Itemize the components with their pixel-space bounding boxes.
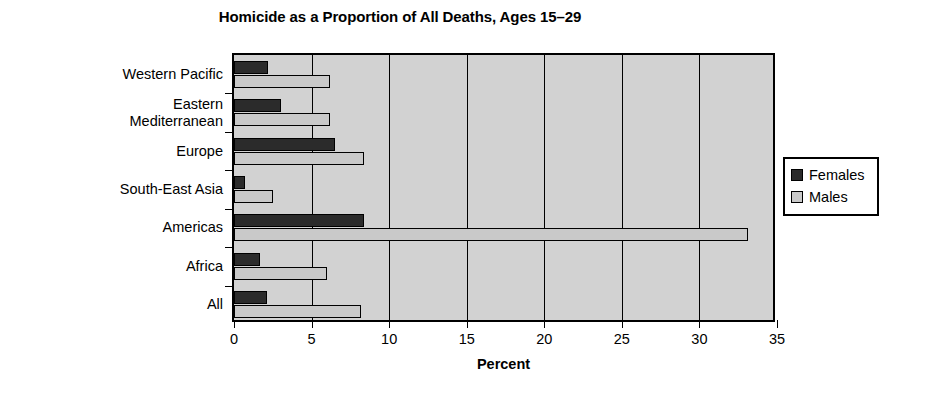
legend-label-males: Males [809, 189, 848, 205]
y-tick-label-line: Western Pacific [123, 66, 223, 83]
y-tick-label-line: South-East Asia [120, 181, 223, 198]
bar-females [234, 176, 245, 189]
x-tick-label: 20 [524, 331, 564, 347]
x-tick-mark [312, 320, 313, 328]
bar-males [234, 113, 330, 126]
y-tick-label: Africa [186, 258, 223, 275]
x-tick-label: 0 [214, 331, 254, 347]
bar-females [234, 253, 260, 266]
y-tick-label: All [207, 296, 223, 313]
bar-females [234, 138, 335, 151]
y-tick-label: Americas [163, 219, 223, 236]
y-tick-label-line: Americas [163, 219, 223, 236]
y-tick-mark [225, 209, 234, 210]
bars-layer [234, 55, 773, 320]
bar-males [234, 75, 330, 88]
y-tick-label-line: Mediterranean [130, 113, 224, 130]
legend-item: Females [791, 164, 871, 186]
y-tick-label: South-East Asia [120, 181, 223, 198]
x-tick-mark [234, 320, 235, 328]
bar-females [234, 61, 268, 74]
y-tick-mark [225, 286, 234, 287]
legend-label-females: Females [809, 167, 865, 183]
x-tick-mark [467, 320, 468, 328]
x-tick-label: 10 [369, 331, 409, 347]
bar-females [234, 214, 364, 227]
x-tick-mark [389, 320, 390, 328]
y-tick-mark [225, 170, 234, 171]
bar-males [234, 152, 364, 165]
y-tick-label-line: Eastern [130, 96, 224, 113]
x-tick-label: 30 [679, 331, 719, 347]
y-tick-label-line: Europe [176, 143, 223, 160]
legend-swatch-males-icon [791, 191, 803, 203]
x-tick-mark [544, 320, 545, 328]
x-tick-mark [777, 320, 778, 328]
bar-males [234, 305, 361, 318]
x-axis-title: Percent [232, 356, 775, 372]
legend-item: Males [791, 186, 871, 208]
chart-title: Homicide as a Proportion of All Deaths, … [0, 8, 800, 25]
x-tick-label: 35 [757, 331, 797, 347]
y-tick-label: EasternMediterranean [130, 96, 224, 130]
legend: Females Males [783, 157, 879, 216]
bar-males [234, 267, 327, 280]
y-tick-label-line: All [207, 296, 223, 313]
y-tick-label-line: Africa [186, 258, 223, 275]
bar-females [234, 291, 267, 304]
x-tick-label: 5 [292, 331, 332, 347]
bar-males [234, 190, 273, 203]
y-tick-mark [225, 93, 234, 94]
chart-container: Homicide as a Proportion of All Deaths, … [0, 0, 936, 396]
y-tick-label: Western Pacific [123, 66, 223, 83]
y-tick-mark [225, 132, 234, 133]
x-tick-mark [699, 320, 700, 328]
bar-males [234, 228, 748, 241]
x-tick-label: 25 [602, 331, 642, 347]
y-tick-label: Europe [176, 143, 223, 160]
legend-swatch-females-icon [791, 169, 803, 181]
y-tick-mark [225, 247, 234, 248]
plot-area: Western PacificEasternMediterraneanEurop… [232, 53, 775, 322]
x-tick-mark [622, 320, 623, 328]
bar-females [234, 99, 281, 112]
x-tick-label: 15 [447, 331, 487, 347]
